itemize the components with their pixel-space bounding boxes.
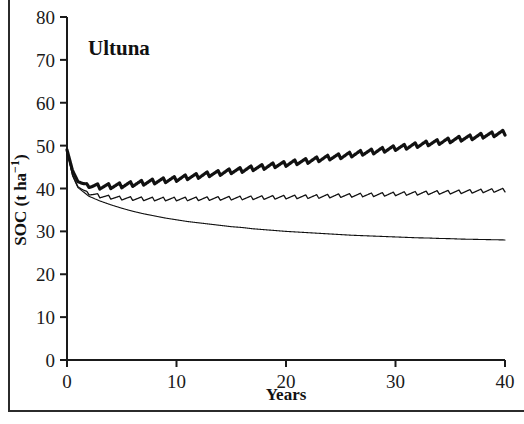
y-axis-tick-label: 60: [36, 93, 55, 114]
x-axis-ticks: [67, 360, 505, 367]
figure-panel: 01020304050607080 010203040 Ultuna Years…: [0, 0, 524, 424]
series-line-middle-thin: [67, 150, 505, 201]
y-axis-tick-label: 80: [36, 7, 55, 28]
x-axis-title: Years: [266, 385, 307, 404]
x-axis-tick-label: 30: [386, 371, 405, 392]
series-group: [67, 130, 505, 240]
soc-line-chart: 01020304050607080 010203040 Ultuna Years…: [0, 0, 524, 424]
y-axis-title-group: SOC (t ha−1): [8, 154, 30, 245]
y-axis-tick-label: 0: [46, 350, 56, 371]
y-axis-tick-label: 10: [36, 307, 55, 328]
y-axis-tick-label: 50: [36, 136, 55, 157]
x-axis-tick-label: 0: [62, 371, 72, 392]
y-axis-ticks: [60, 17, 67, 360]
y-axis-tick-label: 30: [36, 221, 55, 242]
x-axis-tick-label: 10: [167, 371, 186, 392]
y-axis-title: SOC (t ha−1): [8, 154, 30, 245]
series-line-upper-thick: [67, 130, 505, 189]
panel-title: Ultuna: [88, 36, 150, 60]
y-axis-tick-label: 20: [36, 264, 55, 285]
y-axis-tick-label: 70: [36, 50, 55, 71]
x-axis-tick-label: 40: [496, 371, 515, 392]
y-axis-tick-label: 40: [36, 179, 55, 200]
y-axis-tick-labels: 01020304050607080: [36, 7, 55, 371]
